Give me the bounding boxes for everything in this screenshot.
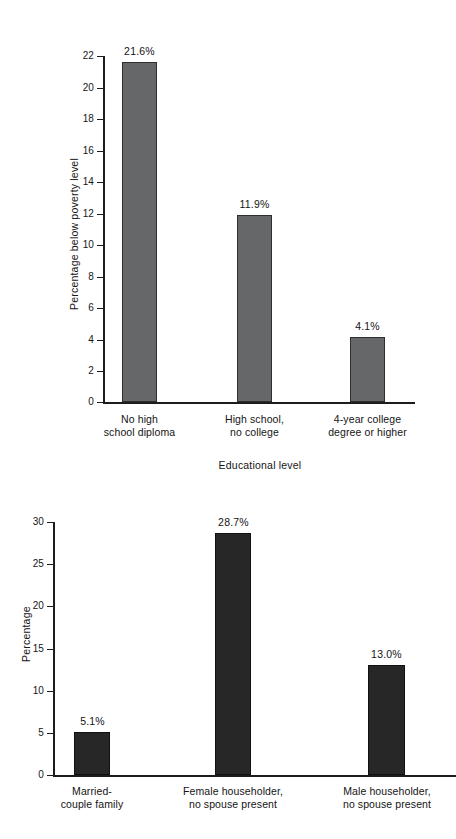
bar-male-householder-no-spouse bbox=[368, 665, 405, 775]
y-tick-label-top-10: 10 bbox=[62, 240, 94, 250]
y-tick-label-top-2: 2 bbox=[62, 366, 94, 376]
y-tick-bottom-5 bbox=[47, 733, 54, 734]
y-tick-label-bottom-10: 10 bbox=[12, 686, 44, 696]
y-tick-label-top-0: 0 bbox=[62, 397, 94, 407]
y-tick-bottom-0 bbox=[47, 775, 54, 776]
y-tick-top-2 bbox=[97, 371, 104, 372]
y-tick-top-18 bbox=[97, 119, 104, 120]
y-tick-label-bottom-25: 25 bbox=[12, 559, 44, 569]
y-tick-label-top-18: 18 bbox=[62, 114, 94, 124]
y-tick-label-top-16: 16 bbox=[62, 146, 94, 156]
y-tick-bottom-10 bbox=[47, 691, 54, 692]
bar-female-householder-no-spouse bbox=[215, 533, 251, 775]
x-axis-line-top bbox=[103, 402, 415, 404]
plot-area-bottom: Percentage 30 25 20 15 10 5 0 5.1% 28.7%… bbox=[0, 480, 456, 839]
bar-high-school-no-college bbox=[237, 215, 272, 402]
bar-no-high-school-diploma bbox=[122, 62, 157, 402]
bar-value-high-school-no-college: 11.9% bbox=[219, 199, 290, 210]
bar-value-married-couple-family: 5.1% bbox=[57, 716, 128, 727]
y-tick-top-16 bbox=[97, 151, 104, 152]
y-tick-top-20 bbox=[97, 88, 104, 89]
y-tick-top-6 bbox=[97, 308, 104, 309]
x-category-label-high-school-no-college: High school, no college bbox=[199, 413, 310, 439]
y-tick-bottom-20 bbox=[47, 606, 54, 607]
y-tick-label-top-6: 6 bbox=[62, 303, 94, 313]
y-axis-line-top bbox=[103, 56, 105, 404]
x-category-label-4-year-college-degree: 4-year college degree or higher bbox=[312, 413, 423, 439]
y-tick-label-top-12: 12 bbox=[62, 209, 94, 219]
y-tick-bottom-30 bbox=[47, 522, 54, 523]
bar-value-4-year-college-degree: 4.1% bbox=[332, 321, 403, 332]
x-category-label-married-couple-family: Married- couple family bbox=[22, 785, 162, 811]
x-category-label-male-householder-no-spouse: Male householder, no spouse present bbox=[317, 785, 456, 811]
y-tick-top-4 bbox=[97, 340, 104, 341]
x-axis-line-bottom bbox=[53, 775, 456, 777]
y-tick-label-top-4: 4 bbox=[62, 335, 94, 345]
x-category-label-no-high-school-diploma: No high school diploma bbox=[84, 413, 195, 439]
bar-value-female-householder-no-spouse: 28.7% bbox=[198, 517, 269, 528]
y-tick-label-top-20: 20 bbox=[62, 83, 94, 93]
y-tick-label-bottom-20: 20 bbox=[12, 601, 44, 611]
y-tick-top-10 bbox=[97, 245, 104, 246]
y-tick-top-8 bbox=[97, 277, 104, 278]
y-tick-label-top-14: 14 bbox=[62, 177, 94, 187]
chart-poverty-by-family-type: Percentage 30 25 20 15 10 5 0 5.1% 28.7%… bbox=[0, 480, 456, 839]
chart-poverty-by-education: Percentage below poverty level 22 20 18 … bbox=[0, 0, 456, 480]
bar-4-year-college-degree bbox=[350, 337, 385, 402]
y-tick-top-14 bbox=[97, 182, 104, 183]
y-tick-bottom-25 bbox=[47, 564, 54, 565]
y-tick-label-top-8: 8 bbox=[62, 272, 94, 282]
x-axis-title-top: Educational level bbox=[180, 459, 340, 471]
bar-value-no-high-school-diploma: 21.6% bbox=[104, 46, 175, 57]
y-tick-label-bottom-15: 15 bbox=[12, 644, 44, 654]
y-tick-top-22 bbox=[97, 56, 104, 57]
bar-value-male-householder-no-spouse: 13.0% bbox=[351, 649, 422, 660]
y-tick-label-bottom-30: 30 bbox=[12, 517, 44, 527]
x-category-label-female-householder-no-spouse: Female householder, no spouse present bbox=[163, 785, 303, 811]
y-tick-label-top-22: 22 bbox=[62, 51, 94, 61]
plot-area-top: Percentage below poverty level 22 20 18 … bbox=[0, 0, 456, 480]
bar-married-couple-family bbox=[74, 732, 110, 775]
y-tick-label-bottom-0: 0 bbox=[12, 770, 44, 780]
y-tick-top-12 bbox=[97, 214, 104, 215]
y-tick-top-0 bbox=[97, 402, 104, 403]
y-tick-label-bottom-5: 5 bbox=[12, 728, 44, 738]
y-tick-bottom-15 bbox=[47, 649, 54, 650]
